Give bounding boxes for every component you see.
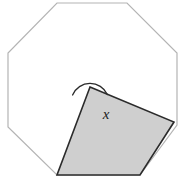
geometry-figure: x	[0, 0, 184, 186]
angle-label-x: x	[102, 106, 110, 122]
geometry-canvas: x	[0, 0, 184, 186]
caption-fragment	[0, 177, 184, 186]
